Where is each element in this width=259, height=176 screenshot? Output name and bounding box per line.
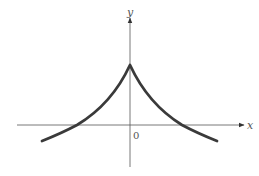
cusp-curve [42,65,217,141]
x-axis-label: x [247,119,254,132]
y-axis-label: y [126,6,134,19]
cusp-curve-diagram: x y 0 [0,0,259,176]
origin-label: 0 [133,130,139,141]
